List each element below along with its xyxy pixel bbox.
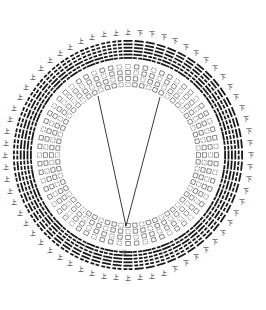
hexagram xyxy=(13,139,33,150)
outer-mark: 下 xyxy=(203,56,209,64)
hexagram xyxy=(70,51,87,72)
outer-mark: 上 xyxy=(4,127,10,134)
outer-mark: 上 xyxy=(47,246,53,253)
outer-mark: 上 xyxy=(17,209,23,216)
outer-mark: 下 xyxy=(239,104,245,112)
hexagram xyxy=(142,248,154,268)
outer-mark: 下 xyxy=(137,29,143,37)
outer-mark: 上 xyxy=(137,273,143,280)
outer-mark: 上 xyxy=(38,238,44,245)
outer-marks-ring: 上下下下下下下下下下下下下下下下下下下下下下下下下下下下下上上上上上上上上上上上… xyxy=(2,28,254,281)
hexagram xyxy=(24,97,45,114)
hexagram xyxy=(112,40,123,60)
hexagram xyxy=(193,71,213,91)
hexagram xyxy=(101,41,113,61)
bottom-label-fu: 復 xyxy=(122,249,127,256)
hexagram xyxy=(142,41,154,61)
outer-mark: 下 xyxy=(233,93,239,101)
outer-mark: 下 xyxy=(220,73,226,81)
hexagram xyxy=(70,238,87,259)
outer-mark: 上 xyxy=(17,93,23,100)
outer-mark: 下 xyxy=(246,175,252,183)
hexagram xyxy=(221,128,241,140)
outer-mark: 上 xyxy=(113,29,119,36)
outer-mark: 上 xyxy=(38,64,44,71)
outer-mark: 上 xyxy=(67,259,73,266)
outer-mark: 上 xyxy=(11,198,17,205)
left-radial-line xyxy=(98,96,126,226)
outer-mark: 上 xyxy=(89,269,95,276)
hexagram xyxy=(44,71,64,91)
outer-mark: 上 xyxy=(3,163,9,170)
diagram-canvas: 上下下下下下下下下下下下下下下下下下下下下下下下下下下下下上上上上上上上上上上上… xyxy=(0,0,266,310)
hexagram xyxy=(221,169,241,181)
outer-mark: 上 xyxy=(30,73,36,80)
hexagram xyxy=(44,220,64,240)
outer-mark: 上 xyxy=(11,104,17,111)
outer-mark: 上 xyxy=(57,253,63,260)
hexagram-circle-diagram: 上下下下下下下下下下下下下下下下下下下下下下下下下下下下下上上上上上上上上上上上… xyxy=(0,0,266,310)
outer-mark: 下 xyxy=(247,139,253,147)
outer-mark: 下 xyxy=(243,187,249,195)
outer-mark: 下 xyxy=(149,30,155,38)
outer-mark: 下 xyxy=(183,259,189,267)
hexagram xyxy=(169,238,186,259)
hexagram xyxy=(224,151,243,160)
hexagram xyxy=(193,220,213,240)
outer-mark: 下 xyxy=(212,238,218,246)
outer-mark: 上 xyxy=(67,43,73,50)
hexagram xyxy=(24,196,45,213)
outer-mark: 下 xyxy=(193,253,199,261)
right-radial-line xyxy=(126,97,160,226)
hexagram xyxy=(13,160,33,171)
outer-mark: 下 xyxy=(247,163,253,171)
outer-mark: 下 xyxy=(248,151,254,159)
outer-mark: 下 xyxy=(246,127,252,135)
outer-mark: 上 xyxy=(78,265,84,272)
outer-mark: 上 xyxy=(101,272,107,279)
outer-mark: 下 xyxy=(183,43,189,51)
outer-mark: 上 xyxy=(30,229,36,236)
outer-mark: 下 xyxy=(161,33,167,41)
outer-mark: 下 xyxy=(203,246,209,254)
outer-mark: 上 xyxy=(2,151,8,158)
outer-mark: 上 xyxy=(125,274,131,281)
hexagram xyxy=(169,51,186,72)
hexagram xyxy=(13,151,32,160)
hexagram xyxy=(211,196,232,213)
outer-mark: 上 xyxy=(7,115,13,122)
outer-mark: 上 xyxy=(4,175,10,182)
hexagram xyxy=(133,250,144,270)
outer-mark: 下 xyxy=(239,198,245,206)
outer-mark: 上 xyxy=(113,273,119,280)
hexagram xyxy=(14,128,34,140)
outer-mark: 上 xyxy=(101,30,107,37)
outer-mark: 下 xyxy=(243,115,249,123)
hexagram xyxy=(14,169,34,181)
outer-mark: 上 xyxy=(57,49,63,56)
hexagram xyxy=(101,248,113,268)
outer-mark: 上 xyxy=(47,56,53,63)
hexagram xyxy=(223,160,243,171)
outer-mark: 下 xyxy=(212,64,218,72)
outer-mark: 上 xyxy=(23,83,29,90)
outer-mark: 下 xyxy=(233,209,239,217)
outer-mark: 上 xyxy=(89,33,95,40)
hexagram xyxy=(223,139,243,150)
outer-mark: 上 xyxy=(149,272,155,279)
outer-mark: 下 xyxy=(227,83,233,91)
hexagram xyxy=(133,40,144,60)
hexagram xyxy=(211,97,232,114)
outer-mark: 上 xyxy=(23,219,29,226)
hexagram xyxy=(124,40,133,59)
outer-mark: 上 xyxy=(161,269,167,276)
outer-mark: 下 xyxy=(172,37,178,45)
outer-mark: 上 xyxy=(125,28,131,35)
outer-mark: 上 xyxy=(7,187,13,194)
outer-mark: 上 xyxy=(78,37,84,44)
outer-mark: 下 xyxy=(172,265,178,273)
outer-mark: 下 xyxy=(220,229,226,237)
outer-mark: 下 xyxy=(227,219,233,227)
outer-mark: 下 xyxy=(193,49,199,57)
outer-mark: 上 xyxy=(3,139,9,146)
